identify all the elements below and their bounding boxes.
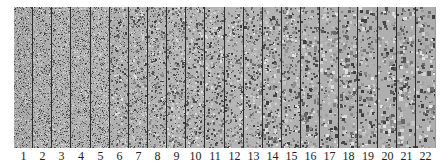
texture-panel-12 [225,7,244,148]
panel-label: 20 [378,149,397,164]
panel-label: 6 [110,149,129,164]
texture-panel-15 [282,7,301,148]
panel-label: 18 [339,149,358,164]
texture-panel-11 [205,7,225,148]
texture-panel-7 [129,7,148,148]
panel-label: 22 [416,149,435,164]
texture-panel-16 [301,7,320,148]
panel-label: 5 [91,149,110,164]
panel-label: 11 [206,149,225,164]
panel-label: 4 [72,149,91,164]
texture-panel-8 [148,7,167,148]
panel-label: 1 [14,149,33,164]
texture-panel-18 [339,7,358,148]
panel-label: 3 [52,149,71,164]
texture-panel-22 [416,7,435,148]
panel-label: 14 [263,149,282,164]
texture-panel-14 [263,7,282,148]
texture-strip [14,7,436,148]
panel-label: 16 [301,149,320,164]
texture-panel-5 [91,7,110,148]
texture-panel-17 [320,7,339,148]
texture-panel-9 [167,7,186,148]
panel-label: 9 [167,149,186,164]
texture-panel-19 [358,7,378,148]
panel-label: 19 [359,149,378,164]
texture-panel-2 [33,7,52,148]
texture-panel-21 [397,7,416,148]
panel-label: 8 [148,149,167,164]
panel-label: 17 [320,149,339,164]
panel-label: 2 [33,149,52,164]
panel-label: 10 [186,149,205,164]
texture-panel-10 [186,7,205,148]
panel-label: 15 [282,149,301,164]
texture-panel-20 [378,7,397,148]
texture-panel-1 [14,7,33,148]
texture-panel-4 [71,7,91,148]
texture-panel-6 [110,7,129,148]
texture-panel-3 [52,7,71,148]
panel-label: 12 [225,149,244,164]
panel-label: 7 [129,149,148,164]
texture-panel-13 [244,7,263,148]
panel-label: 21 [397,149,416,164]
panel-labels: 12345678910111213141516171819202122 [14,148,435,166]
panel-label: 13 [244,149,263,164]
